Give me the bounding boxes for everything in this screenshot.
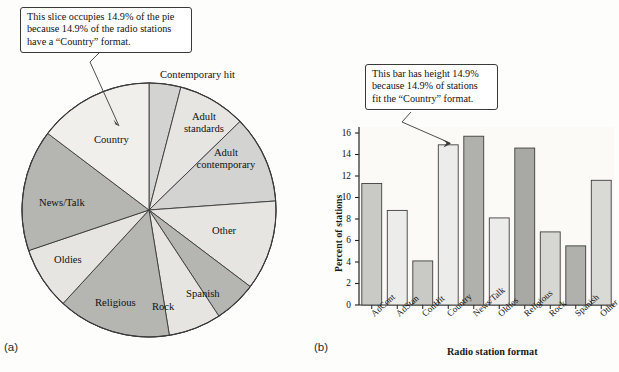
bar-adcont [362, 184, 382, 305]
bar-chart-svg [310, 0, 619, 372]
pie-label-news-talk: News/Talk [39, 197, 85, 209]
pie-label-religious: Religious [95, 297, 136, 309]
pie-label-country: Country [94, 134, 129, 146]
bar-y-tick-2: 2 [335, 278, 351, 288]
bar-y-tick-10: 10 [335, 192, 351, 202]
pie-label-oldies: Oldies [54, 254, 82, 266]
pie-label-rock: Rock [152, 301, 174, 313]
bar-y-tick-14: 14 [335, 149, 351, 159]
bar-y-tick-12: 12 [335, 171, 351, 181]
pie-callout-box: This slice occupies 14.9% of the pie bec… [20, 7, 192, 53]
bar-y-tick-16: 16 [335, 128, 351, 138]
bar-other [591, 180, 611, 305]
bar-news-talk [464, 136, 484, 305]
bar-y-tick-4: 4 [335, 257, 351, 267]
pie-label-adult-contemporary: Adult contemporary [193, 147, 259, 170]
pie-label-other: Other [212, 225, 236, 237]
bar-x-axis-title: Radio station format [447, 346, 538, 357]
bar-spanish [566, 246, 586, 305]
pie-callout-line-3: have a “Country” format. [27, 36, 185, 48]
bar-y-tick-0: 0 [335, 300, 351, 310]
pie-chart-svg [0, 0, 310, 372]
pie-label-spanish: Spanish [186, 288, 220, 300]
pie-callout-line-2: because 14.9% of the radio stations [27, 23, 185, 35]
bar-y-tick-6: 6 [335, 235, 351, 245]
bar-callout-line-1: This bar has height 14.9% [372, 68, 491, 80]
pie-label-contemporary-hit: Contemporary hit [160, 69, 235, 81]
figure-container: This slice occupies 14.9% of the pie bec… [0, 0, 619, 372]
pie-label-adult-standards: Adult standards [176, 111, 232, 134]
bar-callout-line-2: because 14.9% of stations [372, 80, 491, 92]
pie-callout-line-1: This slice occupies 14.9% of the pie [27, 11, 185, 23]
bar-callout-line-3: fit the “Country” format. [372, 93, 491, 105]
panel-b-letter: (b) [314, 341, 328, 353]
bar-religious [515, 148, 535, 305]
bar-y-tick-8: 8 [335, 214, 351, 224]
panel-a-letter: (a) [4, 341, 18, 353]
bar-country [438, 145, 458, 305]
bar-callout-box: This bar has height 14.9% because 14.9% … [365, 64, 498, 110]
